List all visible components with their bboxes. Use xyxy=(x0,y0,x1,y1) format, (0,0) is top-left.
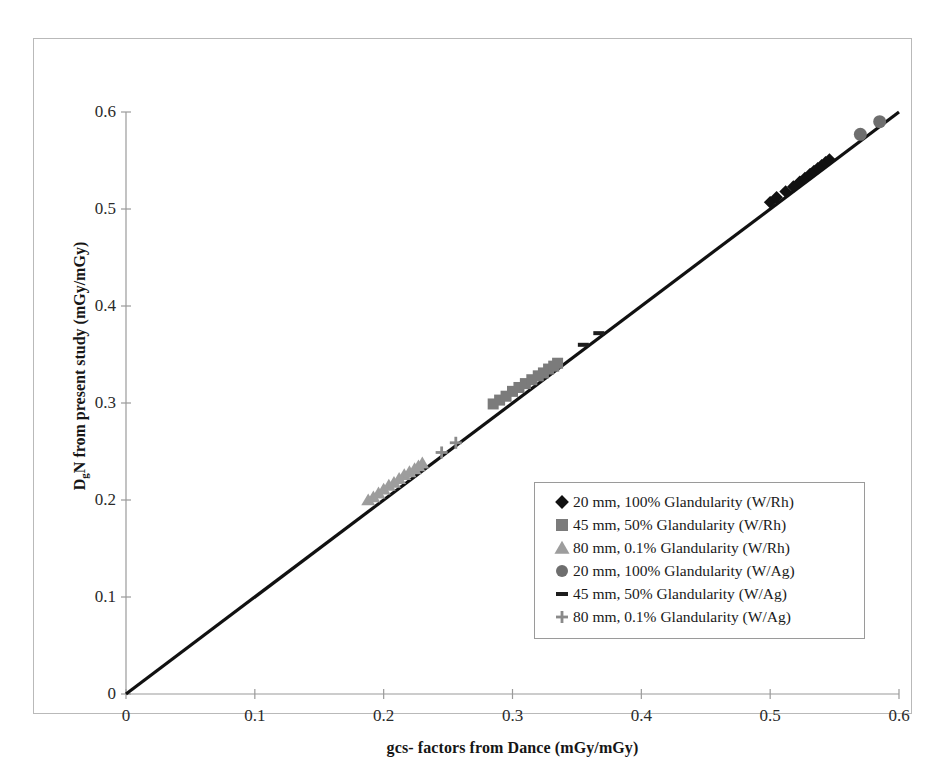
data-point-square xyxy=(552,358,563,369)
y-tick-label: 0 xyxy=(68,684,116,704)
x-tick-label: 0 xyxy=(122,706,131,726)
y-axis-title-rest: N from present study (mGy/mGy) xyxy=(71,242,88,473)
y-axis-title-subscript: g xyxy=(78,473,90,479)
data-series xyxy=(764,153,836,208)
legend-item-label: 80 mm, 0.1% Glandularity (W/Ag) xyxy=(573,609,791,625)
legend-item-label: 80 mm, 0.1% Glandularity (W/Rh) xyxy=(573,540,790,556)
data-series xyxy=(488,358,563,410)
x-tick-label: 0.5 xyxy=(760,706,781,726)
legend-item: 20 mm, 100% Glandularity (W/Ag) xyxy=(535,559,864,582)
data-point-dash xyxy=(578,343,589,347)
data-series-group xyxy=(361,115,886,505)
x-tick-label: 0.4 xyxy=(631,706,652,726)
x-tick-label: 0.1 xyxy=(244,706,265,726)
x-tick-label: 0.3 xyxy=(502,706,523,726)
data-point-dash xyxy=(593,331,604,335)
legend-item-label: 45 mm, 50% Glandularity (W/Ag) xyxy=(573,586,787,602)
diamond-marker-icon xyxy=(551,493,573,511)
data-series xyxy=(361,457,429,506)
data-series xyxy=(436,437,462,459)
legend-item: 45 mm, 50% Glandularity (W/Ag) xyxy=(535,582,864,605)
x-axis-title: gcs- factors from Dance (mGy/mGy) xyxy=(126,739,899,757)
legend-item: 80 mm, 0.1% Glandularity (W/Ag) xyxy=(535,605,864,628)
legend-item-label: 20 mm, 100% Glandularity (W/Ag) xyxy=(573,563,795,579)
legend-item: 80 mm, 0.1% Glandularity (W/Rh) xyxy=(535,536,864,559)
legend-item: 20 mm, 100% Glandularity (W/Rh) xyxy=(535,490,864,513)
x-tick-label: 0.6 xyxy=(888,706,909,726)
x-tick-label: 0.2 xyxy=(373,706,394,726)
y-axis-title-prefix: D xyxy=(71,479,88,491)
figure-page: 00.10.20.30.40.50.6 00.10.20.30.40.50.6 … xyxy=(0,0,946,759)
data-series xyxy=(854,115,886,141)
dash-marker-icon xyxy=(551,585,573,603)
triangle-marker-icon xyxy=(551,539,573,557)
data-point-circle xyxy=(854,128,867,141)
circle-marker-icon xyxy=(551,562,573,580)
chart-legend: 20 mm, 100% Glandularity (W/Rh)45 mm, 50… xyxy=(534,482,865,639)
figure-frame: 00.10.20.30.40.50.6 00.10.20.30.40.50.6 … xyxy=(33,38,912,714)
plus-marker-icon xyxy=(551,608,573,626)
square-marker-icon xyxy=(551,516,573,534)
y-axis-title: DgN from present study (mGy/mGy) xyxy=(71,106,89,626)
legend-item-label: 20 mm, 100% Glandularity (W/Rh) xyxy=(573,494,794,510)
legend-item: 45 mm, 50% Glandularity (W/Rh) xyxy=(535,513,864,536)
data-point-circle xyxy=(873,115,886,128)
legend-item-label: 45 mm, 50% Glandularity (W/Rh) xyxy=(573,517,786,533)
data-point-plus xyxy=(436,446,448,458)
